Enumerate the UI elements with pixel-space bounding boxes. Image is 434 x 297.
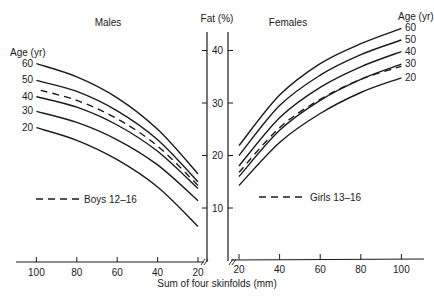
male-age-label: 50 bbox=[22, 74, 34, 85]
female-age-label: 20 bbox=[405, 72, 417, 83]
female-age-label: 50 bbox=[405, 34, 417, 45]
x-tick-label: 40 bbox=[274, 264, 286, 275]
age-labels: 60504030206050403020 bbox=[22, 22, 417, 132]
axes: 102030401008060402020406080100 bbox=[16, 32, 424, 278]
curve-50 bbox=[239, 40, 401, 156]
y-tick-label: 10 bbox=[212, 203, 224, 214]
male-age-label: 60 bbox=[22, 58, 34, 69]
male-age-label: 20 bbox=[22, 122, 34, 133]
x-tick-label: 80 bbox=[71, 267, 83, 278]
y-axis-title: Fat (%) bbox=[201, 13, 234, 24]
age-title-left: Age (yr) bbox=[10, 47, 46, 58]
x-tick-label: 80 bbox=[355, 264, 367, 275]
female-age-label: 30 bbox=[405, 58, 417, 69]
y-tick-label: 40 bbox=[212, 45, 224, 56]
males-title: Males bbox=[95, 17, 122, 28]
x-tick-label: 60 bbox=[315, 264, 327, 275]
females-title: Females bbox=[269, 17, 307, 28]
female-age-label: 60 bbox=[405, 22, 417, 33]
skinfold-body-fat-chart: Males Females Fat (%) Age (yr) Age (yr) … bbox=[0, 0, 434, 297]
female-curves bbox=[239, 28, 401, 185]
age-title-right: Age (yr) bbox=[398, 11, 434, 22]
curve-40 bbox=[239, 52, 401, 166]
x-tick-label: 100 bbox=[393, 264, 410, 275]
curve-girls-13-16 bbox=[239, 66, 401, 172]
girls-legend: Girls 13–16 bbox=[259, 192, 362, 203]
curve-boys-12-16 bbox=[36, 89, 198, 185]
x-tick-label: 20 bbox=[192, 267, 204, 278]
x-tick-label: 100 bbox=[28, 267, 45, 278]
female-age-label: 40 bbox=[405, 46, 417, 57]
right-x-axis bbox=[231, 259, 424, 260]
x-axis-title: Sum of four skinfolds (mm) bbox=[157, 278, 276, 289]
x-tick-label: 40 bbox=[152, 267, 164, 278]
curve-50 bbox=[36, 80, 198, 181]
y-tick-label: 20 bbox=[212, 150, 224, 161]
boys-legend-label: Boys 12–16 bbox=[84, 194, 137, 205]
curve-60 bbox=[36, 64, 198, 174]
x-tick-label: 20 bbox=[233, 264, 245, 275]
curve-20 bbox=[239, 78, 401, 186]
curve-20 bbox=[36, 128, 198, 227]
girls-legend-label: Girls 13–16 bbox=[310, 192, 362, 203]
boys-legend: Boys 12–16 bbox=[36, 194, 137, 205]
y-tick-label: 30 bbox=[212, 98, 224, 109]
male-age-label: 40 bbox=[22, 91, 34, 102]
x-tick-label: 60 bbox=[112, 267, 124, 278]
male-age-label: 30 bbox=[22, 105, 34, 116]
